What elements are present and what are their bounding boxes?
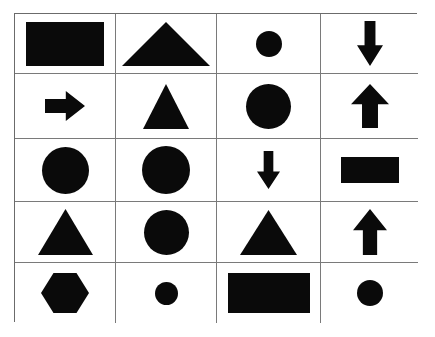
shape-grid (14, 13, 417, 322)
triangle-shape (240, 210, 297, 255)
arrow-shape (45, 91, 85, 121)
grid-cell-r3-c3 (217, 139, 321, 202)
grid-cell-r1-c4 (321, 14, 418, 74)
rectangle-shape (341, 157, 399, 183)
grid-cell-r2-c2 (116, 74, 217, 139)
circle-shape (256, 31, 282, 57)
circle-shape (142, 146, 190, 194)
grid-cell-r5-c1 (15, 263, 116, 323)
hexagon-shape (41, 273, 89, 313)
rectangle-shape (26, 22, 104, 66)
grid-cell-r2-c1 (15, 74, 116, 139)
arrow-shape (357, 21, 383, 66)
circle-shape (357, 280, 383, 306)
figure-canvas (0, 0, 435, 337)
grid-cell-r3-c1 (15, 139, 116, 202)
circle-shape (144, 210, 189, 255)
rectangle-shape (228, 273, 310, 313)
grid-cell-r4-c4 (321, 202, 418, 263)
grid-cell-r4-c2 (116, 202, 217, 263)
triangle-shape (38, 209, 93, 255)
grid-cell-r3-c4 (321, 139, 418, 202)
grid-cell-r2-c4 (321, 74, 418, 139)
arrow-shape (351, 84, 389, 128)
triangle-shape (143, 84, 189, 129)
grid-cell-r1-c2 (116, 14, 217, 74)
grid-cell-r3-c2 (116, 139, 217, 202)
grid-cell-r1-c3 (217, 14, 321, 74)
grid-cell-r4-c1 (15, 202, 116, 263)
grid-cell-r4-c3 (217, 202, 321, 263)
grid-cell-r1-c1 (15, 14, 116, 74)
grid-cell-r5-c2 (116, 263, 217, 323)
arrow-shape (257, 151, 280, 189)
grid-cell-r2-c3 (217, 74, 321, 139)
circle-shape (42, 147, 89, 194)
circle-shape (155, 282, 178, 305)
circle-shape (246, 84, 291, 129)
grid-cell-r5-c3 (217, 263, 321, 323)
grid-cell-r5-c4 (321, 263, 418, 323)
triangle-shape (122, 22, 210, 66)
arrow-shape (353, 209, 387, 255)
